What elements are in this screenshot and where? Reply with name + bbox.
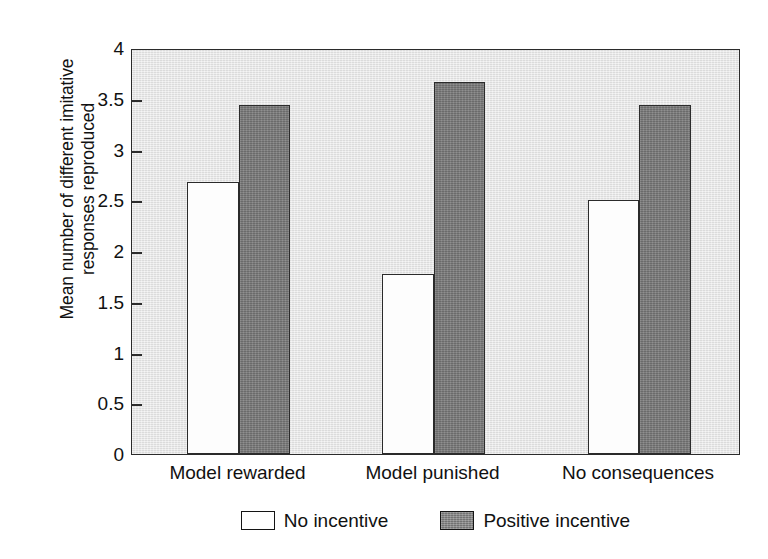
y-axis-tick-label: 1.5	[68, 293, 124, 312]
y-axis-tick-mark	[132, 201, 142, 203]
legend-label: Positive incentive	[483, 511, 630, 530]
y-axis-tick-mark	[132, 252, 142, 254]
y-axis-tick-mark	[132, 151, 142, 153]
x-axis-tick-label: No consequences	[528, 463, 748, 484]
y-axis-tick-mark	[132, 100, 142, 102]
x-axis-tick-labels: Model rewardedModel punishedNo consequen…	[131, 463, 740, 491]
bar-model-punished-no-incentive	[382, 274, 434, 454]
y-axis-tick-mark	[132, 303, 142, 305]
bar-no-consequences-positive-incentive	[639, 105, 691, 454]
y-axis-tick-mark	[132, 404, 142, 406]
legend-swatch-dark	[440, 511, 474, 530]
y-axis-tick-label: 4	[68, 39, 124, 58]
legend-entry[interactable]: No incentive	[241, 511, 389, 530]
plot-area	[131, 49, 740, 455]
y-axis-tick-label: 0	[68, 445, 124, 464]
bar-model-punished-positive-incentive	[434, 82, 486, 455]
bar-chart-figure: Mean number of different imitative respo…	[0, 0, 768, 559]
y-axis-tick-label: 3	[68, 141, 124, 160]
y-axis-tick-label: 2.5	[68, 191, 124, 210]
y-axis-tick-label: 0.5	[68, 394, 124, 413]
legend-swatch-light	[241, 511, 275, 530]
y-axis-tick-label: 1	[68, 344, 124, 363]
bar-model-rewarded-no-incentive	[187, 182, 239, 454]
bar-model-rewarded-positive-incentive	[239, 105, 291, 454]
y-axis-tick-labels: 00.511.522.533.54	[66, 0, 124, 559]
x-axis-tick-label: Model punished	[323, 463, 543, 484]
bar-no-consequences-no-incentive	[588, 200, 640, 454]
legend-entry[interactable]: Positive incentive	[440, 511, 630, 530]
y-axis-tick-mark	[132, 354, 142, 356]
chart-legend: No incentivePositive incentive	[131, 505, 740, 535]
x-axis-tick-label: Model rewarded	[128, 463, 348, 484]
y-axis-tick-label: 2	[68, 242, 124, 261]
legend-label: No incentive	[284, 511, 389, 530]
y-axis-tick-label: 3.5	[68, 90, 124, 109]
